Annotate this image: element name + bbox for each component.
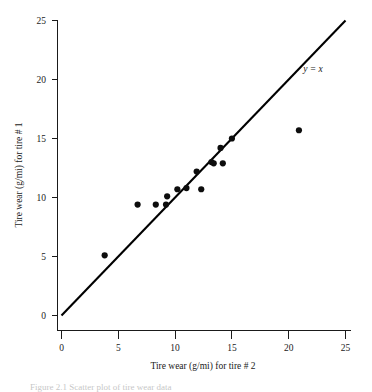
x-tick-label-25: 25 bbox=[341, 343, 351, 353]
data-point bbox=[229, 135, 235, 141]
x-tick-label-10: 10 bbox=[170, 343, 180, 353]
data-point bbox=[164, 193, 170, 199]
data-point bbox=[220, 160, 226, 166]
data-points-layer bbox=[102, 127, 302, 258]
x-tick-label-5: 5 bbox=[116, 343, 121, 353]
x-tick-label-15: 15 bbox=[227, 343, 237, 353]
y-tick-label-15: 15 bbox=[37, 134, 47, 144]
y-axis-tick-labels: 0 5 10 15 20 25 bbox=[37, 16, 47, 321]
x-axis-title: Tire wear (g/mi) for tire # 2 bbox=[150, 361, 255, 372]
x-axis-tick-labels: 0 5 10 15 20 25 bbox=[59, 343, 350, 353]
data-point bbox=[135, 201, 141, 207]
data-point bbox=[211, 160, 217, 166]
y-tick-label-0: 0 bbox=[41, 311, 46, 321]
data-point bbox=[296, 127, 302, 133]
y-axis-title: Tire wear (g/mi) for tire # 1 bbox=[14, 122, 25, 227]
y-tick-label-20: 20 bbox=[37, 75, 47, 85]
y-axis-ticks bbox=[52, 21, 58, 316]
x-axis-ticks bbox=[62, 331, 346, 339]
x-tick-label-0: 0 bbox=[59, 343, 64, 353]
data-point bbox=[174, 186, 180, 192]
y-tick-label-10: 10 bbox=[37, 193, 47, 203]
data-point bbox=[198, 186, 204, 192]
x-tick-label-20: 20 bbox=[284, 343, 294, 353]
reference-line-annotation: y = x bbox=[302, 64, 323, 74]
data-point bbox=[163, 201, 169, 207]
y-tick-label-25: 25 bbox=[37, 16, 47, 26]
data-point bbox=[153, 201, 159, 207]
y-tick-label-5: 5 bbox=[41, 252, 46, 262]
data-point bbox=[102, 252, 108, 258]
figure-caption: Figure 2.1 Scatter plot of tire wear dat… bbox=[30, 382, 360, 392]
data-point bbox=[217, 145, 223, 151]
data-point bbox=[183, 185, 189, 191]
data-point bbox=[194, 168, 200, 174]
